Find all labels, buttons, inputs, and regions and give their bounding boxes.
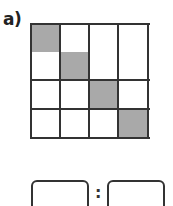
shaded-cell [89, 80, 118, 109]
grid-line [30, 137, 150, 139]
ratio-separator: : [95, 183, 101, 202]
fraction-grid [30, 23, 148, 138]
exercise-label: a) [3, 9, 21, 29]
shaded-cell [30, 23, 60, 52]
grid-line [30, 108, 150, 110]
grid-line [30, 79, 150, 81]
grid-line [30, 23, 150, 25]
shaded-cell [60, 52, 89, 80]
ratio-right-input[interactable] [107, 180, 165, 206]
shaded-cell [118, 109, 148, 138]
ratio-left-input[interactable] [31, 180, 89, 206]
